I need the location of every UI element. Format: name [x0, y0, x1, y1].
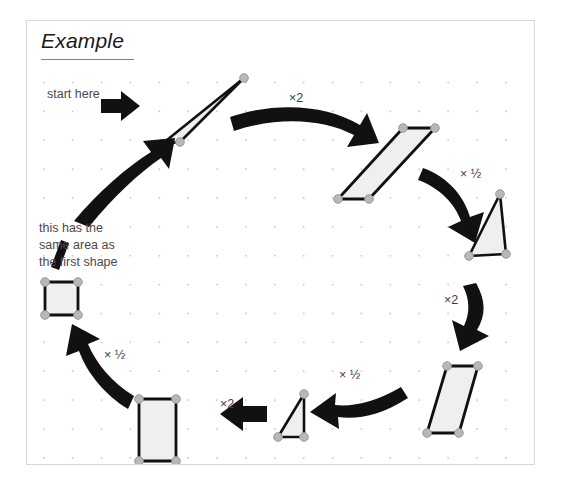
shape-slanted-parallelogram[interactable] — [334, 124, 440, 204]
arrow-step-4-icon — [310, 387, 408, 429]
figure-panel: Example — [26, 20, 535, 465]
operation-label-6: × ½ — [104, 348, 125, 362]
shape-small-square[interactable] — [41, 278, 83, 320]
area-note-line-3: the first shape — [39, 254, 118, 271]
operation-label-3: ×2 — [444, 293, 458, 307]
arrow-start-to-shape1-icon — [74, 138, 175, 227]
shape-small-right-triangle[interactable] — [274, 390, 309, 442]
area-note-line-2: same area as — [39, 237, 115, 254]
start-here-label: start here — [47, 86, 100, 103]
operation-label-5: ×2 — [220, 397, 234, 411]
shape-thin-triangle[interactable] — [158, 74, 249, 149]
operation-label-1: ×2 — [289, 91, 303, 105]
arrow-step-6-icon — [66, 324, 134, 409]
operation-label-4: × ½ — [339, 368, 360, 382]
operation-label-2: × ½ — [460, 167, 481, 181]
area-note-line-1: this has the — [39, 220, 103, 237]
arrow-step-1-icon — [230, 107, 379, 147]
shape-steep-parallelogram[interactable] — [423, 362, 483, 438]
example-figure-canvas: Example — [0, 0, 563, 488]
shape-tall-rectangle[interactable] — [135, 395, 181, 465]
start-arrow-icon — [101, 91, 140, 121]
